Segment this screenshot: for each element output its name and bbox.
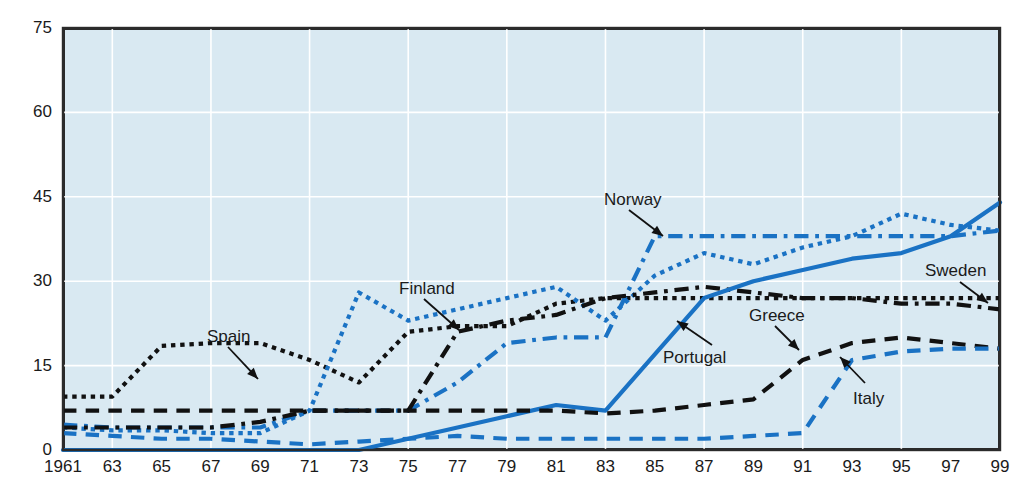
series-label-portugal: Portugal: [663, 349, 726, 366]
series-line-portugal: [63, 202, 1000, 450]
series-label-norway: Norway: [604, 191, 662, 208]
chart-svg: [0, 0, 1030, 497]
y-tick-60: 60: [6, 103, 52, 120]
series-label-greece: Greece: [749, 307, 805, 324]
chart-figure: 01530456075 1961636567697173757779818385…: [0, 0, 1030, 497]
y-tick-0: 0: [6, 441, 52, 458]
gridlines: [64, 29, 1000, 449]
y-tick-45: 45: [6, 188, 52, 205]
y-tick-15: 15: [6, 357, 52, 374]
series-label-spain: Spain: [207, 328, 250, 345]
annotation-arrow-sweden: [960, 282, 988, 303]
annotation-arrow-norway: [629, 210, 663, 236]
y-tick-75: 75: [6, 19, 52, 36]
annotation-arrow-finland: [424, 299, 459, 330]
annotation-arrow-portugal: [677, 321, 712, 345]
series-label-finland: Finland: [399, 280, 455, 297]
series-label-sweden: Sweden: [925, 262, 986, 279]
plot-border: [63, 28, 1000, 450]
series-line-spain: [63, 298, 1000, 396]
series-paths: [63, 202, 1000, 450]
annotation-arrow-greece: [775, 326, 799, 350]
y-tick-30: 30: [6, 272, 52, 289]
annotation-arrow-spain: [228, 347, 258, 379]
series-label-italy: Italy: [853, 390, 884, 407]
x-tick-99: 99: [970, 458, 1030, 475]
